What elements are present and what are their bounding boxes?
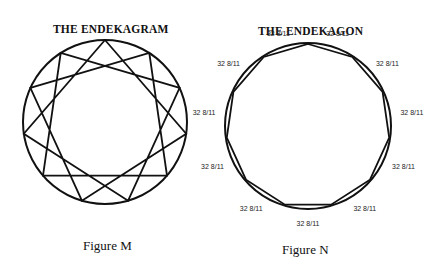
angle-label: 32 8/11: [353, 204, 376, 211]
angle-label: 32 8/11: [326, 29, 349, 36]
angle-label: 32 8/11: [267, 29, 290, 36]
angle-label: 32 8/11: [193, 109, 216, 116]
figure-m-caption: Figure M: [83, 238, 132, 254]
angle-label: 32 8/11: [217, 59, 240, 66]
angle-label: 32 8/11: [297, 220, 320, 227]
angle-label: 32 8/11: [392, 163, 415, 170]
angle-label: 32 8/11: [201, 163, 224, 170]
circumscribed-circle: [225, 43, 391, 209]
endekagon-figure: [0, 0, 437, 265]
angle-label: 32 8/11: [240, 204, 263, 211]
figure-n-caption: Figure N: [282, 242, 329, 258]
angle-label: 32 8/11: [376, 59, 399, 66]
endekagon: [227, 44, 389, 205]
angle-label: 32 8/11: [400, 109, 423, 116]
